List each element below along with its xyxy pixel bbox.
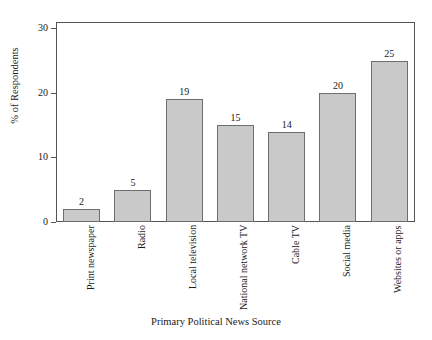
y-axis-title: % of Respondents: [9, 16, 20, 156]
bar[interactable]: [217, 125, 254, 222]
y-axis-tick-label: 10: [38, 152, 48, 162]
x-axis-tick-label-slot: Cable TV: [261, 225, 312, 313]
x-axis-title: Primary Political News Source: [0, 316, 432, 327]
bar-slot: 5: [107, 22, 158, 222]
y-axis: % of Respondents 0102030: [0, 22, 56, 222]
chart-title: [0, 0, 432, 2]
x-axis-tick-label-slot: Radio: [107, 225, 158, 313]
bar[interactable]: [371, 61, 408, 222]
bar-value-label: 5: [107, 177, 158, 188]
bar-value-label: 14: [261, 119, 312, 130]
chart-figure: % of Respondents 0102030 251915142025 Pr…: [0, 0, 432, 340]
x-axis-tick-label-slot: Social media: [312, 225, 363, 313]
bar-slot: 2: [56, 22, 107, 222]
bar-value-label: 19: [159, 86, 210, 97]
bar-value-label: 25: [364, 48, 415, 59]
x-axis-tick-label: Local television: [188, 225, 198, 289]
y-axis-tick-label: 20: [38, 88, 48, 98]
x-axis-tick-label-slot: National network TV: [210, 225, 261, 313]
x-axis-tick-label: Print newspaper: [86, 225, 96, 290]
bar[interactable]: [114, 190, 151, 222]
bar-slot: 14: [261, 22, 312, 222]
y-axis-tick: [51, 222, 56, 223]
bar-value-label: 20: [312, 80, 363, 91]
bars-layer: 251915142025: [56, 22, 415, 222]
bar-value-label: 2: [56, 196, 107, 207]
bar-slot: 15: [210, 22, 261, 222]
bar[interactable]: [319, 93, 356, 222]
y-axis-tick-label: 0: [43, 217, 48, 227]
bar-slot: 19: [159, 22, 210, 222]
x-axis-tick-label-slot: Local television: [159, 225, 210, 313]
x-axis-tick-label-slot: Print newspaper: [56, 225, 107, 313]
x-axis-tick-label: Radio: [137, 225, 147, 249]
bar-slot: 25: [364, 22, 415, 222]
x-axis-tick-label: Social media: [342, 225, 352, 277]
y-axis-tick-label: 30: [38, 23, 48, 33]
bar[interactable]: [63, 209, 100, 222]
bar-slot: 20: [312, 22, 363, 222]
x-axis-tick-label: National network TV: [239, 225, 249, 310]
x-axis-tick-label-slot: Websites or apps: [364, 225, 415, 313]
bar[interactable]: [166, 99, 203, 222]
x-axis-tick-label: Websites or apps: [393, 225, 403, 293]
x-axis-tick-label: Cable TV: [291, 225, 301, 264]
bar-value-label: 15: [210, 112, 261, 123]
bar[interactable]: [268, 132, 305, 222]
x-axis-tick-labels: Print newspaperRadioLocal televisionNati…: [56, 225, 415, 313]
